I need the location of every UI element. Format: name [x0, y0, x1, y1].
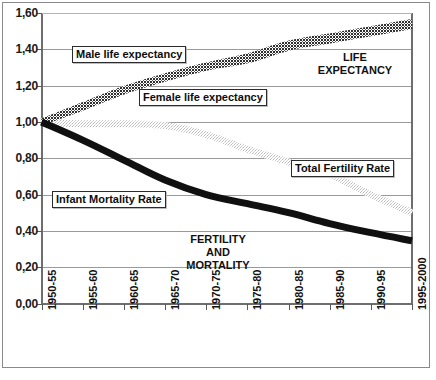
- x-axis-tick-label: 1965-70: [158, 310, 172, 370]
- x-axis-tick-label-text: 1970-75: [210, 270, 222, 310]
- x-axis-tick-label: 1980-85: [282, 310, 296, 370]
- x-axis-tick-label-text: 1985-90: [334, 270, 346, 310]
- x-axis-tick-label: 1960-65: [117, 310, 131, 370]
- region-label-life-expectancy-line2: EXPECTANCY: [310, 64, 400, 77]
- x-axis-tick-label: 1985-90: [323, 310, 337, 370]
- callout-female-life-expectancy: Female life expectancy: [139, 89, 267, 106]
- x-axis-tick-label-text: 1955-60: [87, 270, 99, 310]
- x-axis-tick-label: 1955-60: [76, 310, 90, 370]
- callout-infant-mortality-rate: Infant Mortality Rate: [52, 191, 166, 208]
- x-axis-tick-label: 1950-55: [35, 310, 49, 370]
- x-axis-tick-label-text: 1980-85: [293, 270, 305, 310]
- x-axis-tick-label: 1970-75: [199, 310, 213, 370]
- x-axis-tick-label: 1990-95: [364, 310, 378, 370]
- region-label-fertility-mortality-line2: AND: [163, 246, 273, 259]
- x-axis-tick-label-text: 1950-55: [46, 270, 58, 310]
- x-axis-tick-label-text: 1960-65: [128, 270, 140, 310]
- chart-plot-wrapper: 0,000,200,400,600,801,001,201,401,60 195…: [0, 0, 436, 380]
- callout-male-life-expectancy: Male life expectancy: [72, 46, 186, 63]
- x-axis-tick-label: 1995-2000: [405, 310, 419, 370]
- x-axis-tick-label-text: 1995-2000: [416, 257, 428, 310]
- x-axis-tick-label-text: 1965-70: [169, 270, 181, 310]
- region-label-fertility-mortality-line3: MORTALITY: [163, 259, 273, 272]
- callout-total-fertility-rate: Total Fertility Rate: [291, 160, 394, 177]
- x-axis-tick-label-text: 1975-80: [251, 270, 263, 310]
- region-label-life-expectancy-line1: LIFE: [310, 51, 400, 64]
- region-label-life-expectancy: LIFE EXPECTANCY: [310, 51, 400, 77]
- region-label-fertility-mortality: FERTILITY AND MORTALITY: [163, 233, 273, 272]
- x-axis-tick-label-text: 1990-95: [375, 270, 387, 310]
- x-axis-tick-label: 1975-80: [240, 310, 254, 370]
- region-label-fertility-mortality-line1: FERTILITY: [163, 233, 273, 246]
